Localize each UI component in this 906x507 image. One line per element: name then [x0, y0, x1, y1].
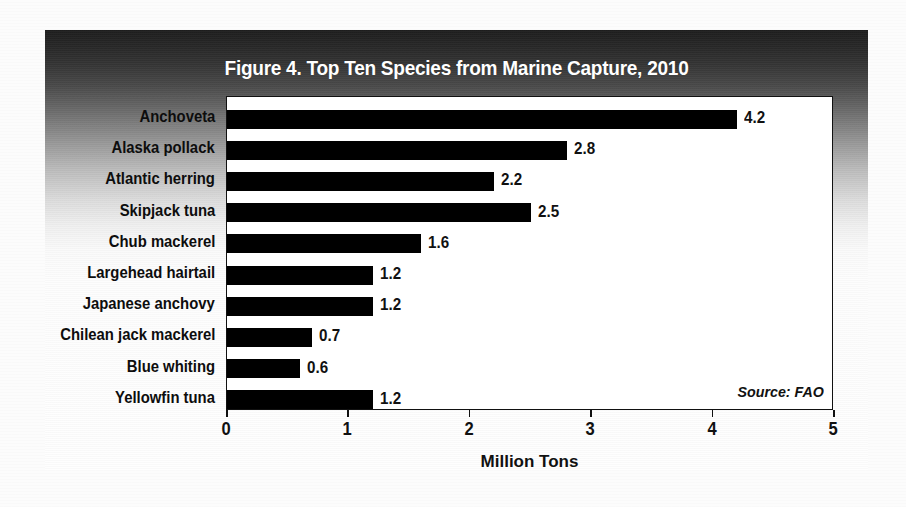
- category-label: Chub mackerel: [109, 232, 215, 251]
- bar: [227, 266, 373, 285]
- bar: [227, 359, 300, 378]
- bar-value-label: 2.2: [501, 170, 522, 189]
- category-label: Skipjack tuna: [119, 201, 215, 220]
- bar-value-label: 0.6: [307, 358, 328, 377]
- category-label: Alaska pollack: [112, 138, 215, 157]
- bar: [227, 141, 567, 160]
- x-axis-tick: [833, 410, 835, 417]
- bar-value-label: 1.6: [428, 233, 449, 252]
- x-axis-tick-label: 2: [464, 419, 473, 440]
- x-axis-tick-label: 1: [343, 419, 352, 440]
- category-label: Japanese anchovy: [83, 294, 215, 313]
- x-axis-tick-label: 0: [221, 419, 230, 440]
- bar-value-label: 4.2: [744, 108, 765, 127]
- x-axis-title: Million Tons: [226, 452, 833, 472]
- x-axis-tick: [226, 410, 228, 417]
- x-axis-tick: [712, 410, 714, 417]
- category-label: Anchoveta: [139, 107, 215, 126]
- category-label: Largehead hairtail: [87, 263, 215, 282]
- bar-value-label: 2.8: [574, 139, 595, 158]
- bar: [227, 203, 531, 222]
- category-axis-labels: AnchovetaAlaska pollackAtlantic herringS…: [45, 96, 221, 410]
- scanned-page-background: Figure 4. Top Ten Species from Marine Ca…: [0, 0, 906, 507]
- bar: [227, 328, 312, 347]
- bar: [227, 172, 494, 191]
- bar-value-label: 1.2: [380, 264, 401, 283]
- x-axis-tick-label: 3: [586, 419, 595, 440]
- bar-value-label: 1.2: [380, 389, 401, 408]
- bar: [227, 390, 373, 409]
- bar: [227, 234, 421, 253]
- category-label: Chilean jack mackerel: [60, 325, 215, 344]
- x-axis-tick-label: 4: [707, 419, 716, 440]
- x-axis-tick: [469, 410, 471, 417]
- figure-panel: Figure 4. Top Ten Species from Marine Ca…: [45, 30, 868, 470]
- figure-title: Figure 4. Top Ten Species from Marine Ca…: [74, 56, 839, 80]
- plot-area: 4.22.82.22.51.61.21.20.70.61.2 Source: F…: [226, 96, 833, 410]
- x-axis-tick: [590, 410, 592, 417]
- bar-value-label: 0.7: [319, 326, 340, 345]
- x-axis-tick-label: 5: [828, 419, 837, 440]
- category-label: Atlantic herring: [105, 169, 215, 188]
- category-label: Yellowfin tuna: [115, 388, 215, 407]
- x-axis-tick: [347, 410, 349, 417]
- bar-value-label: 2.5: [538, 202, 559, 221]
- category-label: Blue whiting: [127, 357, 215, 376]
- bar: [227, 297, 373, 316]
- source-note: Source: FAO: [738, 383, 824, 401]
- bar-value-label: 1.2: [380, 295, 401, 314]
- bar: [227, 110, 737, 129]
